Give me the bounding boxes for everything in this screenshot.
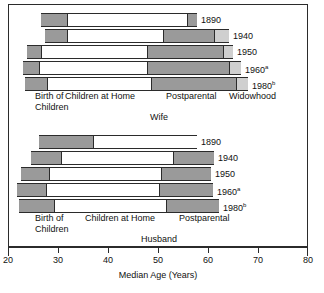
- bar-husband-1980: [19, 199, 219, 213]
- bar-husband-1940: [31, 151, 214, 165]
- x-axis-tick: [208, 247, 209, 253]
- bar-husband-1950: [21, 167, 211, 181]
- family-life-cycle-chart: 1890194019501960a1980b Birth of Children…: [0, 0, 324, 293]
- x-axis-tick: [58, 247, 59, 253]
- year-label-husband-1960: 1960a: [217, 186, 240, 197]
- bar-segment-birth-of-children: [17, 184, 46, 196]
- bar-segment-birth-of-children: [39, 136, 93, 148]
- x-axis-tick-label: 60: [193, 256, 223, 265]
- x-axis-tick-label: 50: [143, 256, 173, 265]
- x-axis-tick-label: 40: [93, 256, 123, 265]
- year-label-husband-1950: 1950: [215, 170, 235, 179]
- x-axis-tick-label: 80: [293, 256, 323, 265]
- x-axis-tick: [258, 247, 259, 253]
- bar-segment-postparental: [161, 168, 211, 180]
- bar-segment-children-at-home: [49, 168, 161, 180]
- bar-segment-postparental: [166, 200, 219, 212]
- bar-segment-birth-of-children: [31, 152, 61, 164]
- x-axis-tick: [158, 247, 159, 253]
- bar-segment-birth-of-children: [19, 200, 54, 212]
- bar-segment-children-at-home: [46, 184, 159, 196]
- bar-segment-children-at-home: [54, 200, 166, 212]
- year-label-husband-1940: 1940: [218, 154, 238, 163]
- bar-segment-children-at-home: [93, 136, 197, 148]
- x-axis-tick: [108, 247, 109, 253]
- bar-segment-birth-of-children: [21, 168, 49, 180]
- x-axis: 20304050607080 Median Age (Years): [8, 247, 308, 293]
- x-axis-tick-label: 70: [243, 256, 273, 265]
- husband-stage-label-postparental: Postparental: [179, 213, 259, 224]
- bar-segment-postparental: [173, 152, 214, 164]
- chart-frame: 1890194019501960a1980b Birth of Children…: [8, 4, 308, 247]
- x-axis-title: Median Age (Years): [8, 271, 308, 280]
- bar-segment-postparental: [159, 184, 213, 196]
- bar-segment-children-at-home: [61, 152, 173, 164]
- x-axis-tick-label: 30: [43, 256, 73, 265]
- bar-husband-1890: [39, 135, 197, 149]
- year-label-husband-1980: 1980b: [223, 202, 246, 213]
- year-label-husband-1890: 1890: [201, 138, 221, 147]
- husband-panel: 1890194019501960a1980b Birth of Children…: [9, 5, 307, 246]
- x-axis-tick-label: 20: [0, 256, 23, 265]
- bar-husband-1960: [17, 183, 213, 197]
- husband-panel-title: Husband: [9, 235, 309, 244]
